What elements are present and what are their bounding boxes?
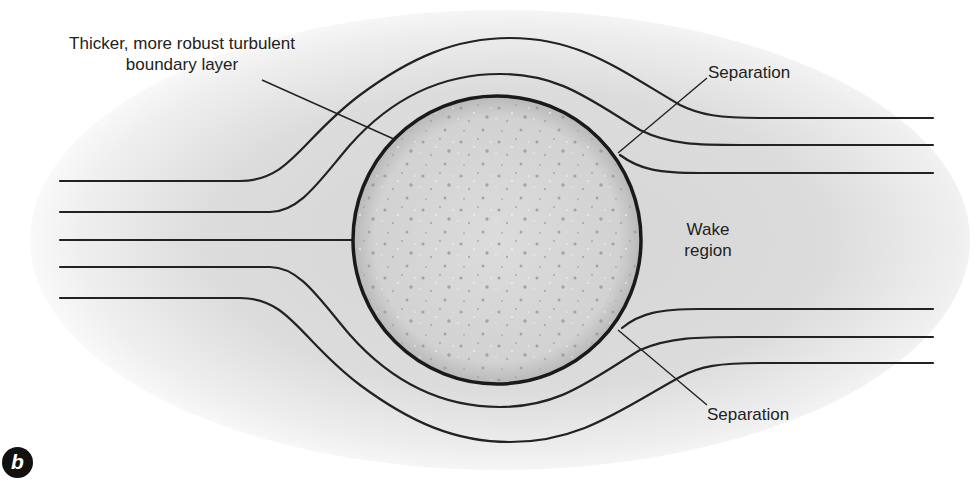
boundary-layer-label-line1: Thicker, more robust turbulent xyxy=(30,33,334,54)
boundary-layer-label-line2: boundary layer xyxy=(30,54,334,75)
wake-label-line1: Wake xyxy=(672,219,744,240)
ball xyxy=(353,96,641,384)
boundary-layer-label: Thicker, more robust turbulent boundary … xyxy=(30,33,334,75)
separation-top-label: Separation xyxy=(708,62,790,83)
wake-region-label: Wake region xyxy=(672,219,744,261)
separation-bottom-label: Separation xyxy=(707,404,789,425)
panel-label-badge: b xyxy=(2,447,33,478)
wake-label-line2: region xyxy=(672,240,744,261)
